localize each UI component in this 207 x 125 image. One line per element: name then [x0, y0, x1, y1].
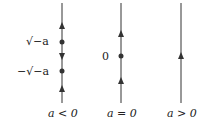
label-neg-sqrt-neg-a: −√−a [17, 66, 49, 77]
equilibrium-dot [60, 69, 65, 74]
arrow-up-icon [178, 52, 184, 59]
caption-a-zero: a = 0 [107, 108, 137, 119]
arrow-up-icon [59, 22, 65, 29]
arrow-up-icon [118, 77, 124, 84]
arrow-up-icon [118, 30, 124, 37]
arrow-up-icon [59, 85, 65, 92]
arrow-down-icon [59, 53, 65, 60]
caption-a-positive: a > 0 [167, 108, 197, 119]
phase-line-a-negative [59, 3, 65, 103]
caption-a-negative: a < 0 [48, 108, 78, 119]
equilibrium-dot [119, 54, 124, 59]
equilibrium-dot [60, 40, 65, 45]
phase-line-a-zero [118, 3, 124, 103]
label-sqrt-neg-a: √−a [26, 36, 49, 47]
label-zero: 0 [102, 51, 109, 62]
phase-line-a-positive [178, 3, 184, 103]
